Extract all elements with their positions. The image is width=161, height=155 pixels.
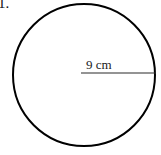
- circle-diagram-svg: [0, 0, 161, 155]
- circle-outline: [13, 4, 155, 146]
- radius-measurement-label: 9 cm: [86, 58, 112, 71]
- geometry-figure: 1. 9 cm: [0, 0, 161, 155]
- item-number: 1.: [0, 0, 9, 11]
